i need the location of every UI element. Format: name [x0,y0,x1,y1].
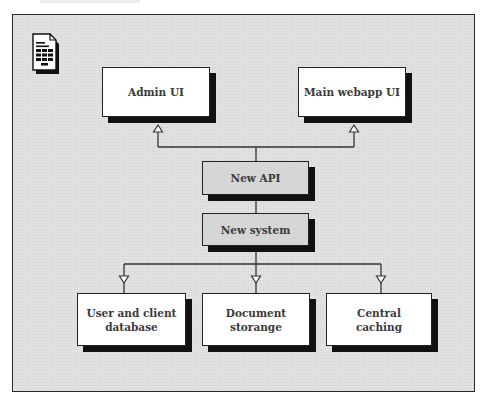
document-storage-box: Document storange [202,293,310,346]
new-api-label: New API [231,171,281,185]
central-caching-box: Central caching [326,293,432,346]
central-caching-label-line1: Central [357,306,401,320]
arrowhead-down-icon [377,276,386,283]
document-storage-label-line2: storange [230,320,282,334]
arrowhead-down-icon [120,276,129,283]
user-client-database-box: User and client database [77,293,186,346]
arrowhead-up-icon [350,125,359,132]
user-client-database-label-line1: User and client [87,306,177,320]
user-client-database-label-line2: database [105,320,158,334]
arrowhead-up-icon [154,125,163,132]
arrowhead-down-icon [252,276,261,283]
document-storage-label-line1: Document [226,306,286,320]
new-system-label: New system [221,223,291,237]
new-system-box: New system [202,213,309,246]
new-api-box: New API [202,161,309,195]
central-caching-label-line2: caching [356,320,402,334]
